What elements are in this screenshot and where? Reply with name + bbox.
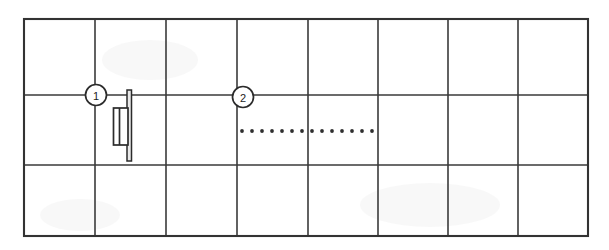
door-panel-rect xyxy=(114,108,129,145)
dotted-line-dot xyxy=(240,129,244,133)
callout-2-text: 2 xyxy=(240,92,246,104)
dotted-line-dot xyxy=(340,129,344,133)
callout-1-text: 1 xyxy=(93,90,99,102)
dotted-line-dot xyxy=(320,129,324,133)
dotted-line-dot xyxy=(290,129,294,133)
dotted-line-dot xyxy=(260,129,264,133)
dotted-line-dot xyxy=(250,129,254,133)
callout-2: 2 xyxy=(233,87,254,108)
dotted-line-dot xyxy=(280,129,284,133)
dotted-line-dot xyxy=(270,129,274,133)
dotted-line-dot xyxy=(360,129,364,133)
dotted-line-dot xyxy=(330,129,334,133)
callout-1: 1 xyxy=(86,85,107,106)
dotted-line-dot xyxy=(350,129,354,133)
dotted-line-dot xyxy=(310,129,314,133)
technical-drawing-canvas: 12 xyxy=(0,0,609,250)
dotted-line-dot xyxy=(300,129,304,133)
dotted-line-dot xyxy=(370,129,374,133)
figure-container: 12 1 2 xyxy=(0,0,609,250)
